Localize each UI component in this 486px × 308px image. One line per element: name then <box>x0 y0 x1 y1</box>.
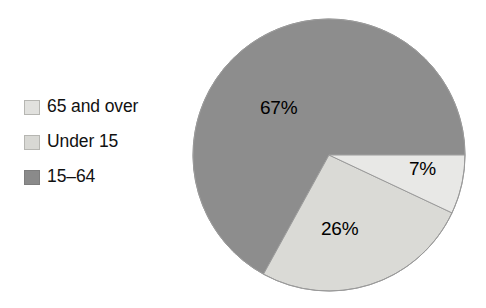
chart-legend: 65 and over Under 15 15–64 <box>24 96 184 201</box>
legend-swatch-65-and-over <box>24 100 40 115</box>
legend-swatch-under-15 <box>24 135 40 150</box>
pie-label-65-and-over: 7% <box>409 159 436 178</box>
legend-item-65-and-over[interactable]: 65 and over <box>24 96 184 118</box>
legend-label-65-and-over: 65 and over <box>47 98 138 116</box>
legend-swatch-15-64 <box>24 170 40 185</box>
legend-item-under-15[interactable]: Under 15 <box>24 131 184 153</box>
legend-item-15-64[interactable]: 15–64 <box>24 166 184 188</box>
pie-chart-figure: 67% 26% 7% 65 and over Under 15 15–64 <box>0 0 486 308</box>
pie-label-15-64: 67% <box>260 98 297 117</box>
legend-label-under-15: Under 15 <box>47 133 118 151</box>
legend-label-15-64: 15–64 <box>47 168 95 186</box>
pie-label-under-15: 26% <box>321 219 358 238</box>
